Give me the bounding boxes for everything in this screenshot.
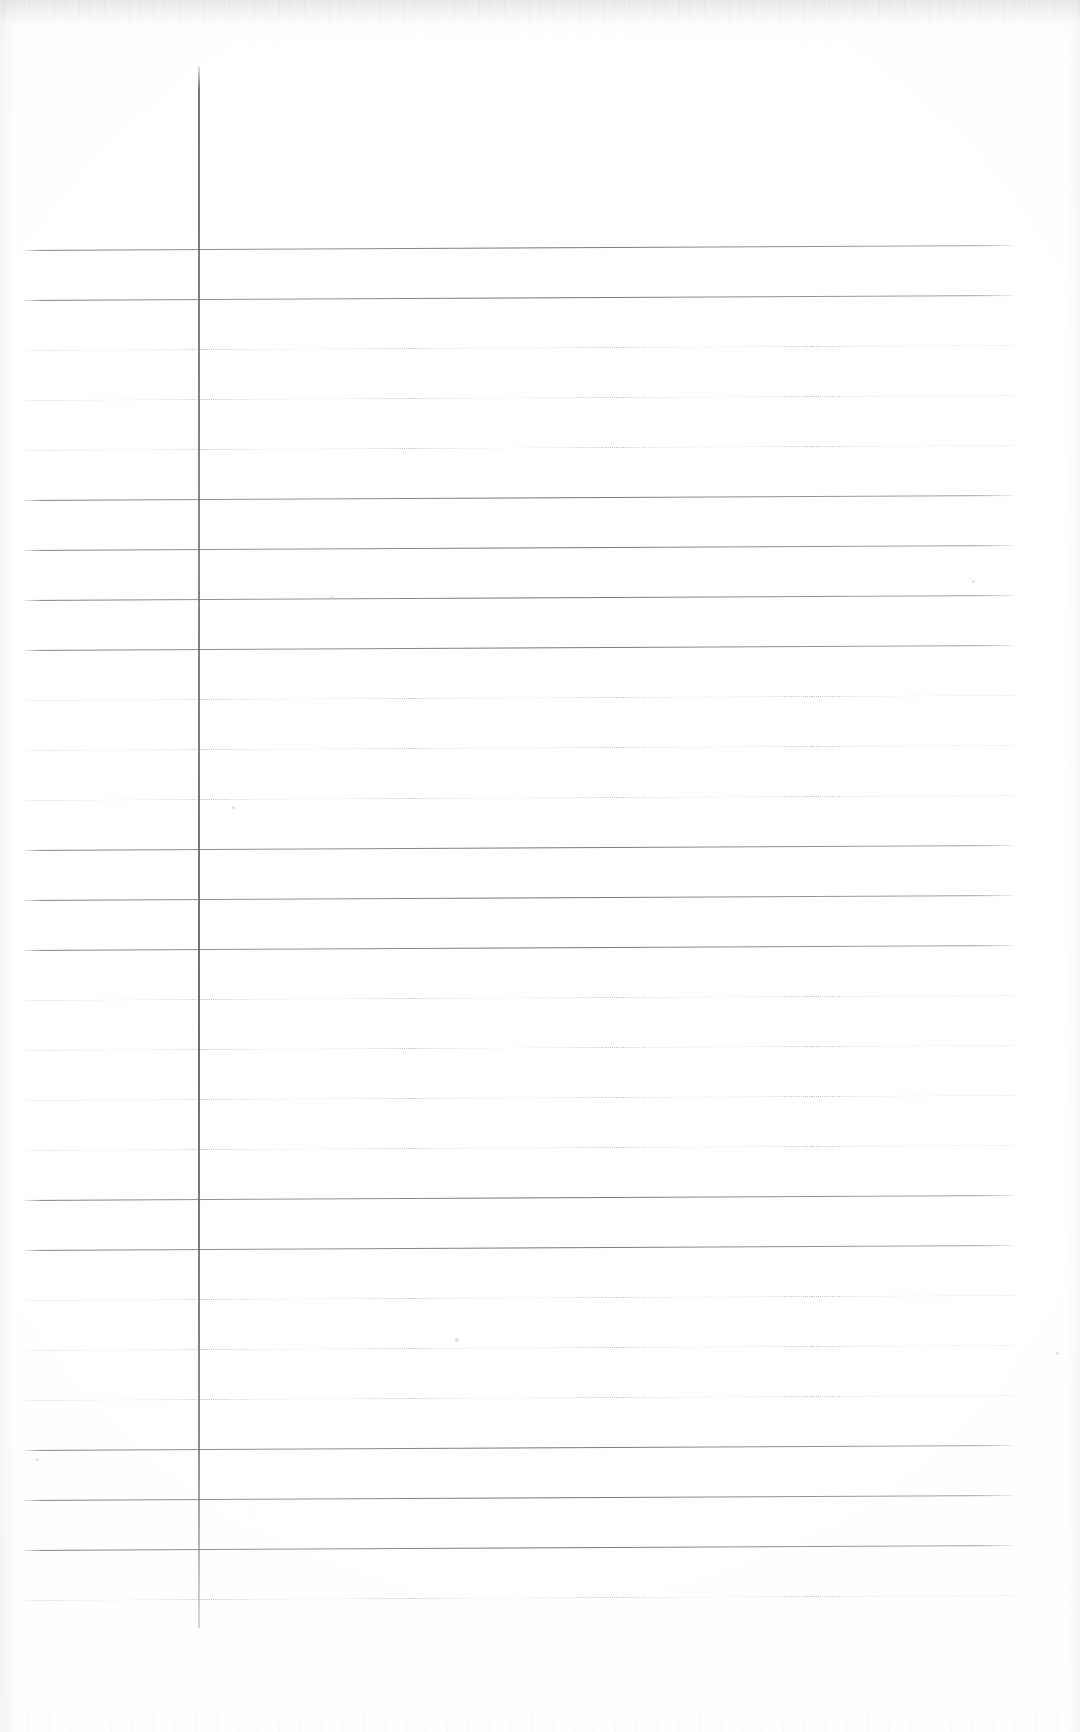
vertical-margin-line [198,66,200,1628]
ruled-line [24,1495,1014,1501]
ruled-line [24,395,1014,401]
horizontal-ruling-layer [0,0,1080,1732]
ruled-line [24,895,1014,901]
ruled-line [24,1445,1014,1451]
ruled-line [24,295,1014,301]
ruled-line [24,595,1014,601]
ruled-line [24,445,1014,451]
ruled-line [24,1545,1014,1551]
ruled-line [24,795,1014,801]
ruled-line [24,645,1014,651]
ruled-line [24,695,1014,701]
ruled-line [24,1595,1014,1601]
ruled-line [24,1195,1014,1201]
ruled-line [24,745,1014,751]
ruled-line [24,1295,1014,1301]
ruled-line [24,1345,1014,1351]
ruled-line [24,245,1014,251]
ruled-line [24,945,1014,951]
ruled-line [24,995,1014,1001]
ruled-line [24,1245,1014,1251]
scanned-page [0,0,1080,1732]
ruled-line [24,845,1014,851]
ruled-line [24,1045,1014,1051]
ruled-line [24,1395,1014,1401]
ruled-line [24,1095,1014,1101]
ruled-line [24,545,1014,551]
ruled-line [24,495,1014,501]
ruled-line [24,1145,1014,1151]
ruled-line [24,345,1014,351]
